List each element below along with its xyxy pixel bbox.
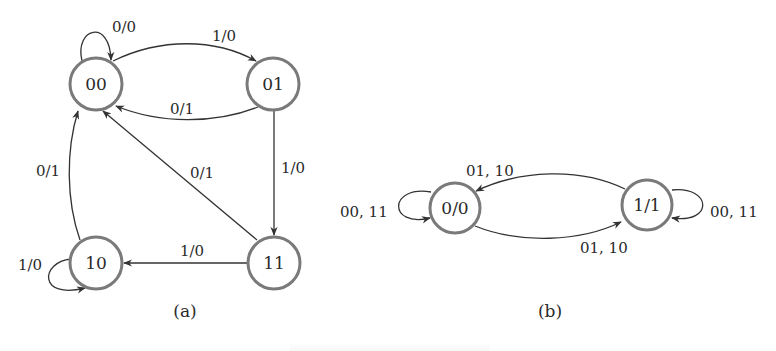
- transition-label: 01, 10: [466, 162, 514, 180]
- state-diagram-figure: 0/0 1/0 0/1 1/0 0/1 1/0 0/: [0, 0, 776, 351]
- transition-label: 1/0: [180, 242, 204, 260]
- transition-10-to-00: 0/1: [36, 111, 80, 240]
- transition-label: 0/0: [112, 18, 136, 36]
- state-01: 01: [247, 58, 299, 110]
- panel-a-caption: (a): [173, 301, 196, 321]
- state-1/1: 1/1: [622, 180, 672, 230]
- transition-label: 1/0: [281, 159, 305, 177]
- transition-label: 00, 11: [710, 203, 758, 221]
- transition-label: 0/1: [190, 164, 214, 182]
- transition-1/1-to-1/1: 00, 11: [672, 190, 758, 221]
- state-10: 10: [70, 237, 122, 289]
- state-label: 01: [262, 74, 284, 94]
- panel-b: 00, 11 01, 10 01, 10 00, 11 0/0 1/1 (b): [340, 162, 758, 321]
- transition-1/1-to-0/0: 01, 10: [466, 162, 625, 191]
- state-label: 00: [85, 74, 107, 94]
- transition-01-to-00: 0/1: [116, 100, 258, 120]
- panel-b-caption: (b): [538, 301, 562, 321]
- transition-11-to-00: 0/1: [103, 111, 257, 240]
- transition-label: 0/1: [170, 100, 194, 118]
- transition-label: 0/1: [36, 162, 60, 180]
- transition-11-to-10: 1/0: [124, 242, 247, 263]
- state-11: 11: [248, 237, 300, 289]
- state-label: 1/1: [633, 195, 660, 215]
- panel-a: 0/0 1/0 0/1 1/0 0/1 1/0 0/: [18, 18, 305, 321]
- truncated-figure-caption: [290, 343, 490, 351]
- state-label: 10: [85, 253, 107, 273]
- state-label: 0/0: [441, 198, 468, 218]
- transition-label: 01, 10: [580, 239, 628, 257]
- transition-label: 1/0: [212, 27, 236, 45]
- state-00: 00: [70, 58, 122, 110]
- state-0/0: 0/0: [430, 183, 480, 233]
- state-label: 11: [263, 253, 285, 273]
- transition-01-to-11: 1/0: [274, 110, 305, 235]
- transition-0/0-to-1/1: 01, 10: [475, 222, 628, 257]
- transition-label: 1/0: [18, 256, 42, 274]
- transition-0/0-to-0/0: 00, 11: [340, 191, 431, 221]
- transition-label: 00, 11: [340, 203, 388, 221]
